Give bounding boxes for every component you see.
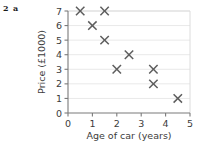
x-tick-label: 1 [89, 118, 95, 129]
y-axis-title: Price (£1000) [36, 30, 47, 94]
x-tick-label: 4 [163, 118, 169, 129]
y-tick-label: 3 [56, 64, 62, 75]
y-tick-label: 6 [56, 20, 62, 31]
y-axis-tick-labels: 01234567 [56, 6, 62, 119]
plot-background [68, 11, 190, 113]
x-tick-label: 2 [114, 118, 120, 129]
y-tick-label: 4 [56, 49, 62, 60]
scatter-plot-figure: 012345 01234567 Age of car (years) Price… [0, 0, 199, 143]
scatter-plot-svg: 012345 01234567 Age of car (years) Price… [0, 0, 199, 143]
x-axis-tick-labels: 012345 [65, 118, 193, 129]
y-tick-label: 5 [56, 35, 62, 46]
x-tick-label: 3 [138, 118, 144, 129]
x-tick-label: 0 [65, 118, 71, 129]
y-tick-label: 2 [56, 78, 62, 89]
y-tick-label: 7 [56, 6, 62, 17]
y-tick-label: 0 [56, 108, 62, 119]
y-tick-label: 1 [56, 93, 62, 104]
x-axis-title: Age of car (years) [86, 130, 171, 141]
x-tick-label: 5 [187, 118, 193, 129]
